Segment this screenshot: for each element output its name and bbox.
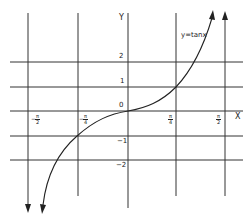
arrow-up-icon	[222, 11, 228, 20]
arrow-down-icon	[25, 204, 31, 213]
x-axis-label: X	[235, 113, 240, 121]
x-tick-neg-pi-4: − π 4	[83, 114, 88, 125]
y-tick-1: 1	[120, 78, 124, 85]
tan-graph	[0, 0, 250, 223]
y-axis-label: Y	[119, 14, 124, 22]
y-tick-m1: −1	[117, 138, 127, 145]
x-tick-pi-2: π 2	[216, 114, 221, 125]
function-label: y=tanx	[181, 32, 207, 39]
x-tick-pi-4: π 4	[168, 114, 173, 125]
curve-arrow-up-icon	[209, 10, 215, 20]
x-tick-neg-pi-2: − π 2	[35, 114, 40, 125]
origin-label: 0	[119, 102, 123, 109]
y-tick-2: 2	[119, 53, 123, 60]
curve-arrow-down-icon	[40, 204, 46, 214]
y-tick-m2: −2	[116, 162, 126, 169]
